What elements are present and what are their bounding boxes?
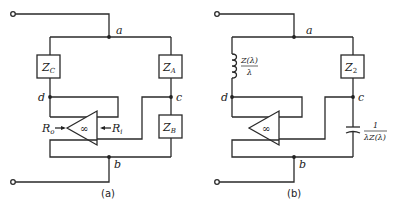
panel-a: a b c d ZC ZA ZB ∞ Ro Ri (a) <box>11 12 182 199</box>
node-dot-b-b <box>292 155 296 159</box>
label-node-d: d <box>38 91 45 104</box>
wire-bottom-terminal <box>15 157 109 182</box>
input-terminal-bottom-b <box>215 180 220 185</box>
node-dot-d-b <box>230 95 234 99</box>
label-node-c-b: c <box>358 91 364 104</box>
label-node-b: b <box>114 158 121 171</box>
input-terminal-top <box>11 12 16 17</box>
wire-top-terminal-b <box>219 14 294 37</box>
label-ri: Ri <box>111 122 123 136</box>
label-amp-gain-b: ∞ <box>262 123 270 134</box>
node-dot-d <box>48 95 52 99</box>
wire-amp-to-c-b <box>279 97 353 139</box>
label-amp-gain: ∞ <box>80 123 88 134</box>
wire-d-feedback <box>50 97 118 117</box>
label-inductor-den: λ <box>246 68 252 77</box>
node-dot-b <box>107 155 111 159</box>
circuit-figure: a b c d ZC ZA ZB ∞ Ro Ri (a) <box>0 0 395 208</box>
node-dot-c-b <box>351 95 355 99</box>
wire-d-feedback-b <box>232 97 302 117</box>
ri-arrowhead-icon <box>100 126 105 130</box>
label-inductor-num: Z(λ) <box>240 56 258 65</box>
wire-bottom-b <box>232 140 353 157</box>
node-dot-a-b <box>292 35 296 39</box>
label-node-c: c <box>176 91 182 104</box>
caption-a: (a) <box>101 188 115 199</box>
label-node-b-b: b <box>299 158 306 171</box>
label-node-a: a <box>116 24 123 37</box>
node-dot-c <box>169 95 173 99</box>
label-node-a-b: a <box>306 24 313 37</box>
input-terminal-bottom <box>11 180 16 185</box>
inductor-coil <box>232 54 237 78</box>
caption-b: (b) <box>287 188 301 199</box>
label-cap-den: λZ(λ) <box>363 133 386 142</box>
ro-arrowhead-icon <box>61 126 66 130</box>
label-node-d-b: d <box>221 91 228 104</box>
wire-top-terminal <box>15 14 109 37</box>
node-dot-a <box>107 35 111 39</box>
label-cap-num: 1 <box>373 121 378 130</box>
panel-b: a b c d Z(λ) λ Z2 ∞ 1 λZ(λ) (b) <box>215 12 387 199</box>
input-terminal-top-b <box>215 12 220 17</box>
label-ro: Ro <box>41 122 55 136</box>
wire-bottom-terminal-b <box>219 157 294 182</box>
wire-bottom <box>50 140 171 157</box>
